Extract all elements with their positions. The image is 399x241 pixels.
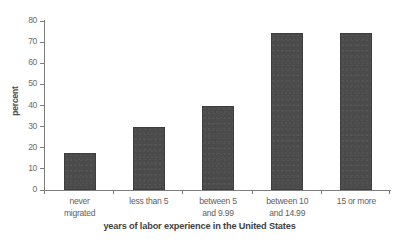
x-tick-mark: [252, 190, 253, 194]
bar: [202, 106, 234, 191]
x-tick-mark: [113, 190, 114, 194]
x-category-label: nevermigrated: [45, 196, 114, 219]
y-axis-ticks: 01020304050607080: [0, 21, 44, 190]
y-tick-label: 60: [28, 57, 37, 68]
x-axis-category-labels: nevermigratedless than 5between 5and 9.9…: [45, 196, 391, 224]
bar-slot: [202, 21, 234, 190]
x-category-label: between 5and 9.99: [183, 196, 252, 219]
x-category-label-line: and 14.99: [253, 208, 322, 220]
x-tick-mark: [182, 190, 183, 194]
x-category-label-line: between 5: [183, 196, 252, 208]
x-axis-title: years of labor experience in the United …: [0, 221, 399, 231]
bar-series: [45, 21, 391, 190]
y-tick-label: 70: [28, 36, 37, 47]
x-category-label: between 10and 14.99: [253, 196, 322, 219]
bar: [340, 33, 372, 190]
x-category-label-line: and 9.99: [183, 208, 252, 220]
x-tick-mark: [321, 190, 322, 194]
bar-slot: [64, 21, 96, 190]
bar-slot: [133, 21, 165, 190]
x-category-label: 15 or more: [322, 196, 391, 208]
y-tick-label: 0: [33, 184, 37, 195]
x-category-label-line: between 10: [253, 196, 322, 208]
bar-chart: percent 01020304050607080 nevermigratedl…: [0, 0, 399, 241]
x-category-label-line: never: [45, 196, 114, 208]
bar: [64, 153, 96, 190]
y-tick-label: 20: [28, 142, 37, 153]
y-tick-label: 50: [28, 78, 37, 89]
y-tick-label: 80: [28, 15, 37, 26]
x-category-label-line: less than 5: [114, 196, 183, 208]
bar-slot: [340, 21, 372, 190]
bar: [133, 127, 165, 190]
y-tick-label: 30: [28, 121, 37, 132]
x-category-label-line: 15 or more: [322, 196, 391, 208]
bar-slot: [271, 21, 303, 190]
x-tick-mark: [44, 190, 45, 194]
x-tick-mark: [389, 190, 390, 194]
x-category-label: less than 5: [114, 196, 183, 208]
y-tick-label: 40: [28, 100, 37, 111]
x-category-label-line: migrated: [45, 208, 114, 220]
y-tick-label: 10: [28, 163, 37, 174]
bar: [271, 33, 303, 190]
